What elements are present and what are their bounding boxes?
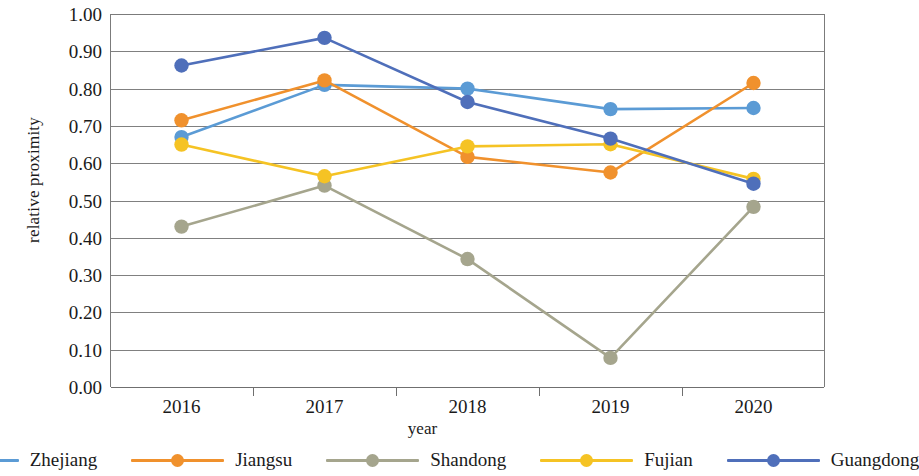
x-axis-tickmark [539, 387, 540, 396]
gridline [111, 14, 824, 15]
legend-label: Zhejiang [30, 449, 98, 471]
gridline [111, 201, 824, 202]
legend-line [774, 459, 820, 462]
chart-legend: ZhejiangJiangsuShandongFujianGuangdong [0, 446, 845, 474]
legend-line [727, 459, 773, 462]
legend-line [178, 459, 224, 462]
gridline [111, 163, 824, 164]
y-axis-tick-label: 0.00 [30, 378, 102, 397]
gridline [111, 238, 824, 239]
x-axis-tick-label: 2018 [408, 396, 528, 418]
gridline [111, 275, 824, 276]
y-axis-tick-label: 0.30 [30, 266, 102, 285]
x-axis-tickmark [682, 387, 683, 396]
legend-marker-icon [767, 454, 780, 467]
gridline [111, 126, 824, 127]
gridline [111, 350, 824, 351]
legend-item-shandong[interactable]: Shandong [326, 449, 506, 471]
gridline [111, 89, 824, 90]
gridline [111, 312, 824, 313]
legend-item-zhejiang[interactable]: Zhejiang [0, 449, 97, 471]
legend-marker-icon [171, 454, 184, 467]
gridline [111, 51, 824, 52]
plot-area [110, 14, 825, 387]
y-axis-tick-label: 0.20 [30, 303, 102, 322]
y-axis-tick-label: 0.10 [30, 340, 102, 359]
y-axis-tick-label: 0.50 [30, 191, 102, 210]
y-axis-tick-label: 0.90 [30, 42, 102, 61]
x-axis-tickmark [253, 387, 254, 396]
y-axis-tick-label: 0.40 [30, 228, 102, 247]
y-axis-tick-label: 0.80 [30, 79, 102, 98]
legend-line [373, 459, 419, 462]
x-axis-tick-label: 2020 [694, 396, 814, 418]
legend-marker-icon [366, 454, 379, 467]
legend-line [587, 459, 633, 462]
y-axis-tick-labels: 1.000.900.800.700.600.500.400.300.200.10… [26, 0, 102, 476]
y-axis-tick-label: 1.00 [30, 5, 102, 24]
legend-item-jiangsu[interactable]: Jiangsu [131, 449, 292, 471]
legend-line [0, 459, 19, 462]
x-axis-tick-label: 2016 [122, 396, 242, 418]
legend-label: Shandong [430, 449, 506, 471]
legend-item-fujian[interactable]: Fujian [540, 449, 693, 471]
x-axis-tick-label: 2017 [265, 396, 385, 418]
y-axis-tick-label: 0.70 [30, 116, 102, 135]
legend-label: Fujian [644, 449, 693, 471]
x-axis-tick-label: 2019 [551, 396, 671, 418]
legend-item-guangdong[interactable]: Guangdong [727, 449, 919, 471]
x-axis-tickmark [396, 387, 397, 396]
y-axis-tick-label: 0.60 [30, 154, 102, 173]
legend-label: Jiangsu [235, 449, 292, 471]
legend-marker-icon [580, 454, 593, 467]
legend-label: Guangdong [831, 449, 919, 471]
x-axis-title: year [0, 419, 845, 439]
